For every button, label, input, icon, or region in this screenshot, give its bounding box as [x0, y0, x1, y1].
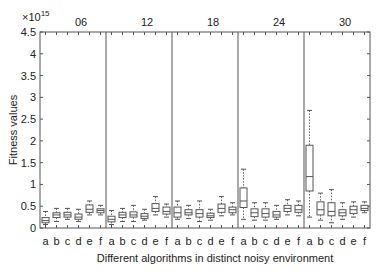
box [306, 145, 313, 191]
y-tick-label: 3 [30, 91, 36, 103]
group-label: 24 [273, 16, 285, 28]
y-tick-label: 4 [30, 48, 36, 60]
category-label: d [75, 235, 81, 247]
category-label: a [174, 235, 181, 247]
box [86, 205, 93, 212]
category-label: f [165, 235, 169, 247]
y-tick-label: 1.5 [21, 157, 36, 169]
y-tick-label: 0 [30, 222, 36, 234]
category-label: c [329, 235, 335, 247]
group-label: 18 [207, 16, 219, 28]
category-label: b [119, 235, 125, 247]
category-label: e [284, 235, 290, 247]
box-plot-chart: 00.511.522.533.544.5×1015Fitness valuesD… [0, 0, 383, 275]
group-label: 30 [339, 16, 351, 28]
category-label: c [263, 235, 269, 247]
category-label: f [363, 235, 367, 247]
category-label: d [273, 235, 279, 247]
group-label: 06 [75, 16, 87, 28]
category-label: d [207, 235, 213, 247]
category-label: c [65, 235, 71, 247]
category-label: a [240, 235, 247, 247]
category-label: c [131, 235, 137, 247]
box [328, 203, 335, 216]
y-tick-label: 0.5 [21, 200, 36, 212]
category-label: e [86, 235, 92, 247]
y-tick-label: 3.5 [21, 70, 36, 82]
box [317, 202, 324, 215]
y-tick-label: 4.5 [21, 26, 36, 38]
box [240, 188, 247, 208]
category-label: b [251, 235, 257, 247]
category-label: b [317, 235, 323, 247]
box [152, 204, 159, 212]
box [174, 207, 181, 217]
category-label: e [152, 235, 158, 247]
category-label: a [42, 235, 49, 247]
y-multiplier-label: ×1015 [22, 9, 50, 23]
category-label: e [350, 235, 356, 247]
category-label: a [306, 235, 313, 247]
category-label: f [99, 235, 103, 247]
box [273, 211, 280, 217]
y-tick-label: 2.5 [21, 113, 36, 125]
y-tick-label: 2 [30, 135, 36, 147]
y-axis-title: Fitness values [7, 94, 19, 165]
group-label: 12 [141, 16, 153, 28]
category-label: f [231, 235, 235, 247]
category-label: b [53, 235, 59, 247]
y-tick-label: 1 [30, 178, 36, 190]
box [295, 205, 302, 212]
box [163, 207, 170, 214]
category-label: e [218, 235, 224, 247]
category-label: b [185, 235, 191, 247]
x-axis-title: Different algorithms in distinct noisy e… [97, 252, 333, 264]
category-label: d [141, 235, 147, 247]
plot-frame [40, 32, 370, 228]
category-label: d [339, 235, 345, 247]
box [262, 209, 269, 217]
category-label: c [197, 235, 203, 247]
category-label: f [297, 235, 301, 247]
category-label: a [108, 235, 115, 247]
